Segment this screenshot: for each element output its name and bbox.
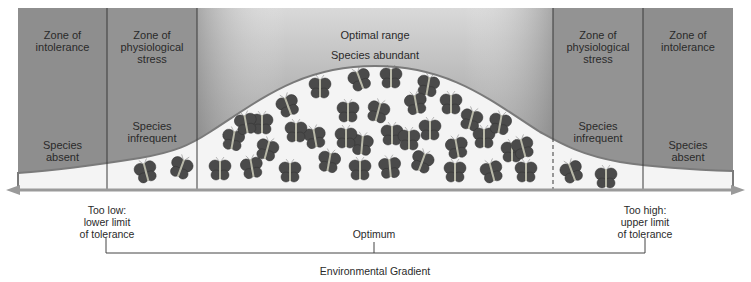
zone-stress-low-status: Species infrequent	[107, 120, 197, 144]
gradient-bracket	[106, 238, 645, 253]
zone-optimal-status: Species abundant	[197, 49, 553, 61]
zone-optimal-heading: Optimal range	[197, 29, 553, 41]
arrow-left-icon	[6, 185, 20, 195]
zone-stress-low-heading: Zone of physiological stress	[107, 29, 197, 65]
zone-intolerance-low-heading: Zone of intolerance	[18, 29, 107, 53]
arrow-right-icon	[731, 185, 745, 195]
environmental-gradient-label: Environmental Gradient	[300, 265, 450, 277]
zone-intolerance-high-heading: Zone of intolerance	[643, 29, 733, 53]
zone-stress-high-status: Species infrequent	[553, 120, 643, 144]
zone-stress-high-heading: Zone of physiological stress	[553, 29, 643, 65]
lower-limit-label: Too low: lower limit of tolerance	[66, 204, 148, 240]
zone-intolerance-low-status: Species absent	[18, 139, 107, 163]
zone-intolerance-high-status: Species absent	[643, 139, 733, 163]
optimum-label: Optimum	[334, 228, 414, 240]
upper-limit-label: Too high: upper limit of tolerance	[604, 204, 686, 240]
